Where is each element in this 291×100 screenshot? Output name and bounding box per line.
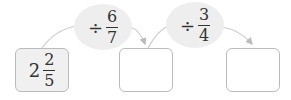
- denominator: 4: [199, 28, 209, 44]
- divide-symbol: ÷: [88, 17, 103, 38]
- divide-symbol: ÷: [180, 15, 195, 36]
- operation-2: ÷ 3 4: [166, 2, 224, 48]
- fraction: 6 7: [106, 9, 118, 46]
- numerator: 3: [199, 7, 209, 23]
- answer-box-1[interactable]: [119, 48, 173, 92]
- operation-1: ÷ 6 7: [74, 4, 132, 50]
- start-value-box: 2 2 5: [15, 48, 69, 92]
- numerator: 6: [107, 9, 117, 25]
- denominator: 5: [44, 73, 54, 89]
- fraction: 2 5: [43, 52, 55, 89]
- whole-part: 2: [29, 60, 40, 81]
- numerator: 2: [44, 52, 54, 68]
- fraction: 3 4: [198, 7, 210, 44]
- denominator: 7: [107, 30, 117, 46]
- answer-box-2[interactable]: [226, 48, 280, 92]
